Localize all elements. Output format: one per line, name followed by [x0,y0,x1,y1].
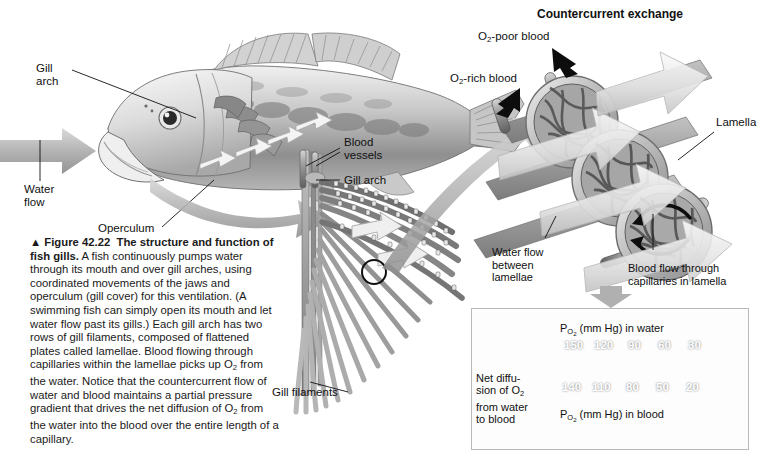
net-diffusion-label: Net diffu- sion of O2 from water to bloo… [476,372,538,426]
caption-triangle-icon: ▲ [30,236,41,248]
net-diffusion-line-3: from water [476,401,528,413]
water-po2-value-3: 90 [628,339,641,351]
label-water-flow-between-lamellae: Water flow between lamellae [492,246,544,284]
net-diffusion-line-4: to blood [476,413,515,425]
countercurrent-title: Countercurrent exchange [471,7,749,21]
blood-po2-value-5: 20 [686,381,699,393]
blood-po2-value-3: 80 [626,381,639,393]
label-gill-arch-mid: Gill arch [344,174,386,187]
water-po2-value-4: 60 [658,339,671,351]
label-water-flow: Water flow [24,183,54,209]
blood-po2-value-1: 140 [562,381,581,393]
label-o2-rich-blood: O2-rich blood [450,72,517,88]
net-diffusion-line-2: sion of O [476,384,520,396]
label-gill-filaments: Gill filaments [272,386,338,399]
blood-po2-value-2: 110 [592,381,611,393]
blood-axis-label: PO2 (mm Hg) in blood [560,408,664,423]
water-po2-value-2: 120 [594,339,613,351]
water-axis-label: PO2 (mm Hg) in water [560,322,664,337]
label-operculum: Operculum [98,222,154,235]
net-diffusion-sub: 2 [520,390,524,399]
water-po2-value-5: 30 [688,339,701,351]
net-diffusion-line-1: Net diffu- [476,372,520,384]
figure-caption: ▲ Figure 42.22 The structure and functio… [30,236,280,446]
label-o2-poor-blood: O2-poor blood [478,30,550,46]
caption-body: A fish continuously pumps water through … [30,250,279,445]
water-inflow-arrow [0,128,96,174]
water-po2-value-1: 150 [564,339,583,351]
o2-poor-pointer-arrow [552,48,578,78]
label-lamella: Lamella [716,116,756,129]
label-blood-vessels: Blood vessels [344,136,382,162]
caption-figure-number: Figure 42.22 [44,236,110,248]
label-gill-arch-fish: Gill arch [36,62,58,88]
blood-po2-value-4: 50 [656,381,669,393]
label-blood-flow-capillaries: Blood flow through capillaries in lamell… [628,262,726,287]
afferent-vessel [300,150,306,188]
